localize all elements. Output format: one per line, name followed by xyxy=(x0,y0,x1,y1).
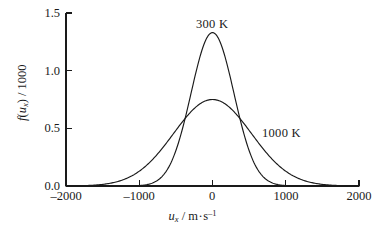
y-axis-label: f(ux) / 1000 xyxy=(14,65,29,122)
y-axis-label-arg-subscript: x xyxy=(20,104,30,108)
x-tick-label--2000: –2000 xyxy=(36,190,96,203)
x-tick-label--1000: –1000 xyxy=(109,190,169,203)
x-tick-label-1000: 1000 xyxy=(259,190,313,203)
y-tick-label-1-5: 1.5 xyxy=(34,7,60,20)
x-axis-label-exponent: –1 xyxy=(208,208,217,218)
annotation-300k: 300 K xyxy=(196,17,228,32)
x-axis-label-separator: / xyxy=(179,209,189,223)
y-axis-label-separator: / xyxy=(14,90,28,100)
y-tick-label-0-5: 0.5 xyxy=(34,122,60,135)
y-axis-label-open-paren: ( xyxy=(14,114,28,118)
y-axis-label-container: f(ux) / 1000 xyxy=(10,0,34,186)
x-tick-label-2000: 2000 xyxy=(332,190,385,203)
x-axis-label: ux / m·s–1 xyxy=(0,208,385,224)
y-axis-label-scale: 1000 xyxy=(14,65,28,90)
annotation-1000k: 1000 K xyxy=(262,126,301,141)
x-axis-label-unit-m: m xyxy=(188,209,198,223)
data-curves xyxy=(66,33,359,186)
y-axis-ticks xyxy=(66,13,72,186)
y-axis-label-symbol: f xyxy=(14,118,28,121)
x-tick-label-0: 0 xyxy=(192,190,232,203)
chart-figure: 1.5 1.0 0.5 0.0 –2000 –1000 0 1000 2000 … xyxy=(0,0,385,233)
y-axis-label-arg: u xyxy=(14,107,28,113)
curve-1000k xyxy=(66,100,359,186)
y-tick-label-1-0: 1.0 xyxy=(34,65,60,78)
curve-300k xyxy=(66,33,359,186)
y-axis-label-close-paren: ) xyxy=(14,99,28,103)
